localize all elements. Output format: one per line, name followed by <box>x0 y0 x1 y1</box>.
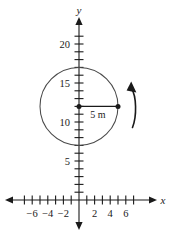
y-tick-label-15: 15 <box>60 78 71 89</box>
x-tick-label--2: −2 <box>58 208 69 219</box>
y-axis-label: y <box>76 4 82 16</box>
x-tick-label--4: −4 <box>42 208 54 219</box>
rotation-arrow-curve <box>132 89 136 128</box>
x-axis-group: −6 −4 −2 2 4 6 x <box>5 194 166 219</box>
y-tick-label-10: 10 <box>60 117 71 128</box>
x-axis-arrow-left <box>5 196 13 203</box>
x-axis-arrow-right <box>149 196 157 203</box>
center-point-dot <box>77 104 82 109</box>
rotation-arrow-head <box>127 82 137 93</box>
figure-svg: −6 −4 −2 2 4 6 x <box>0 0 173 235</box>
y-axis-arrow-up <box>75 17 82 25</box>
x-axis-label: x <box>160 194 166 206</box>
rotation-arrow-icon <box>127 82 137 128</box>
radius-group: 5 m <box>77 104 121 120</box>
y-tick-label-5: 5 <box>65 156 70 167</box>
x-tick-label--6: −6 <box>27 208 38 219</box>
coordinate-plane-figure: −6 −4 −2 2 4 6 x <box>0 0 173 235</box>
x-tick-label-2: 2 <box>92 208 97 219</box>
radius-measure-label: 5 m <box>90 109 106 120</box>
y-axis-arrow-down <box>75 222 82 230</box>
x-tick-label-6: 6 <box>123 208 128 219</box>
y-tick-label-20: 20 <box>60 39 71 50</box>
radius-endpoint-dot <box>116 104 121 109</box>
x-tick-label-4: 4 <box>108 208 114 219</box>
